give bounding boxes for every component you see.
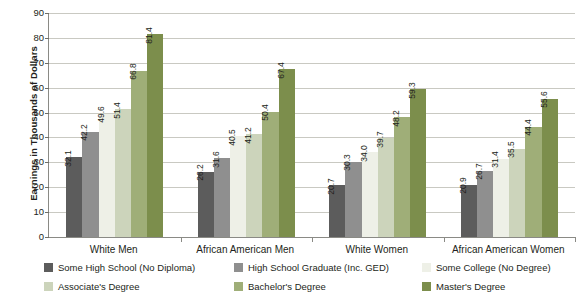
bar-value-label: 66.8 [129,63,140,80]
bar-value-label: 59.3 [408,82,419,99]
bar: 26.2 [198,172,214,237]
bar-value-label: 51.4 [112,102,123,119]
bar-value-label: 49.6 [96,106,107,123]
bar-group: 20.926.731.435.544.455.6 [444,13,576,237]
y-axis-tick-label: 30 [33,158,44,168]
bar-value-label: 55.6 [539,91,550,108]
bar: 35.5 [509,149,525,237]
x-axis-category-label: White Men [48,243,180,256]
y-axis-tick-label: 10 [33,207,44,217]
bars-layer: 32.142.249.651.466.881.426.231.640.541.2… [49,13,575,237]
y-axis-tick-label: 90 [33,8,44,18]
bar: 81.4 [147,34,163,237]
chart-legend: Some High School (No Diploma)High School… [44,262,581,302]
legend-swatch [234,263,243,272]
legend-label: Master's Degree [436,281,505,292]
legend-item[interactable]: Associate's Degree [44,281,140,292]
legend-swatch [44,282,53,291]
bar-value-label: 20.9 [458,178,469,195]
bar: 44.4 [525,127,541,238]
bar: 40.5 [230,136,246,237]
bar: 42.2 [82,132,98,237]
bar: 66.8 [131,71,147,237]
y-axis-tick-label: 40 [33,133,44,143]
bar: 32.1 [66,157,82,237]
y-axis-tick-label: 0 [39,232,44,242]
bar-value-label: 32.1 [64,150,75,167]
y-axis-tick-label: 80 [33,33,44,43]
x-axis-tick-mark [575,237,576,242]
bar: 51.4 [115,109,131,237]
legend-item[interactable]: Bachelor's Degree [234,281,326,292]
legend-item[interactable]: High School Graduate (Inc. GED) [234,262,389,273]
bar-value-label: 20.7 [327,178,338,195]
x-axis-category-label: African American Women [443,243,575,256]
legend-label: Some College (No Degree) [436,262,551,273]
bar-value-label: 31.4 [491,152,502,169]
bar: 48.2 [394,117,410,237]
legend-item[interactable]: Some High School (No Diploma) [44,262,195,273]
bar-value-label: 41.2 [244,127,255,144]
bar: 30.3 [345,162,361,237]
bar-value-label: 50.4 [260,104,271,121]
legend-label: Associate's Degree [58,281,140,292]
legend-item[interactable]: Some College (No Degree) [422,262,551,273]
bar-value-label: 44.4 [523,119,534,136]
bar: 67.4 [279,69,295,237]
legend-label: Some High School (No Diploma) [58,262,195,273]
bar-value-label: 26.7 [474,163,485,180]
x-axis-category-label: White Women [311,243,443,256]
legend-swatch [422,263,431,272]
bar: 31.6 [214,158,230,237]
bar: 34.0 [362,152,378,237]
legend-item[interactable]: Master's Degree [422,281,505,292]
bar: 50.4 [262,112,278,237]
bar-group: 32.142.249.651.466.881.4 [49,13,181,237]
bar: 26.7 [477,171,493,237]
bar-value-label: 30.3 [343,154,354,171]
bar-value-label: 40.5 [228,129,239,146]
y-axis-tick-mark [45,237,49,238]
bar: 39.7 [378,138,394,237]
bar-value-label: 35.5 [507,141,518,158]
y-axis-tick-label: 50 [33,108,44,118]
bar: 20.9 [461,185,477,237]
legend-swatch [422,282,431,291]
bar: 31.4 [493,159,509,237]
x-axis-category-labels: White MenAfrican American MenWhite Women… [48,243,574,257]
x-axis-tick-mark [444,237,445,242]
bar-group: 26.231.640.541.250.467.4 [181,13,313,237]
x-axis-category-label: African American Men [180,243,312,256]
bar-value-label: 26.2 [195,165,206,182]
bar: 55.6 [542,99,558,237]
bar-value-label: 31.6 [211,151,222,168]
legend-swatch [234,282,243,291]
bar-value-label: 42.2 [80,125,91,142]
y-axis-tick-label: 70 [33,58,44,68]
bar-chart: Earnings in Thousands of Dollars 0102030… [0,0,581,306]
y-axis-tick-label: 20 [33,182,44,192]
x-axis-tick-mark [181,237,182,242]
bar: 59.3 [410,89,426,237]
plot-area: 0102030405060708090 32.142.249.651.466.8… [48,13,575,238]
bar-value-label: 39.7 [375,131,386,148]
bar-value-label: 81.4 [145,27,156,44]
bar: 49.6 [99,114,115,237]
legend-label: High School Graduate (Inc. GED) [248,262,389,273]
bar-value-label: 34.0 [359,145,370,162]
y-axis-tick-label: 60 [33,83,44,93]
legend-swatch [44,263,53,272]
bar: 41.2 [246,134,262,237]
bar-group: 20.730.334.039.748.259.3 [312,13,444,237]
bar-value-label: 48.2 [392,110,403,127]
bar-value-label: 67.4 [276,62,287,79]
x-axis-tick-mark [312,237,313,242]
legend-label: Bachelor's Degree [248,281,326,292]
bar: 20.7 [329,185,345,237]
